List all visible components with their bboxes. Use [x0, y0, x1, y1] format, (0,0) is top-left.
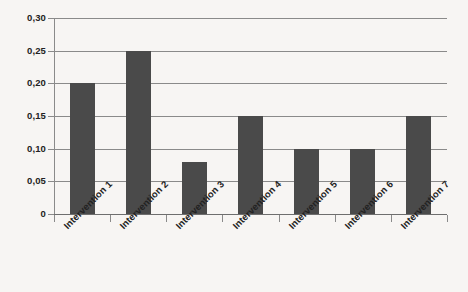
gridline [54, 51, 447, 52]
y-axis-tick-label: 0,25 [2, 46, 46, 56]
x-tick-mark [222, 215, 223, 222]
bar [126, 51, 151, 214]
y-axis-tick-label: 0,15 [2, 111, 46, 121]
x-tick-mark [110, 215, 111, 222]
gridline [54, 83, 447, 84]
y-axis-tick-label: 0,10 [2, 144, 46, 154]
x-tick-mark [391, 215, 392, 222]
y-axis-tick-label: 0,30 [2, 13, 46, 23]
x-tick-mark [335, 215, 336, 222]
y-axis-tick-label: 0,05 [2, 176, 46, 186]
x-tick-mark [54, 215, 55, 222]
x-tick-mark [279, 215, 280, 222]
x-tick-mark [166, 215, 167, 222]
y-axis-tick-label: 0,20 [2, 78, 46, 88]
gridline [54, 18, 447, 19]
y-axis-tick-label: 0 [2, 209, 46, 219]
x-tick-mark [447, 215, 448, 222]
bar-chart-figure: 0,300,250,200,150,100,050 Intervention 1… [0, 0, 468, 292]
